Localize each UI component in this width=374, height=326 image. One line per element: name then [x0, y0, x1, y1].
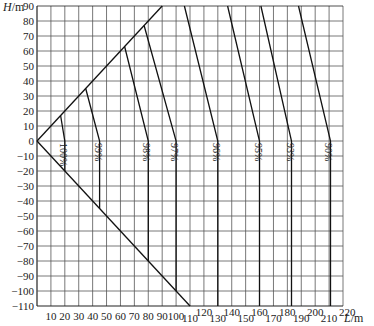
curve-label: 99%	[93, 143, 104, 161]
curve-label: 100%	[58, 143, 69, 166]
x-tick-label: 20	[59, 310, 71, 322]
curve-label: 98%	[141, 143, 152, 161]
x-tick-label: 90	[157, 310, 169, 322]
x-tick-label: 50	[101, 310, 113, 322]
x-tick-label: 60	[115, 310, 127, 322]
y-tick-label: −50	[17, 210, 35, 222]
y-axis-title: H/m	[2, 0, 25, 14]
y-tick-label: −60	[17, 225, 35, 237]
x-tick-label: 10	[45, 310, 57, 322]
curve-label: 96%	[211, 143, 222, 161]
x-axis-title: L/m	[343, 311, 364, 325]
y-tick-label: −20	[17, 165, 35, 177]
x-tick-label: 210	[321, 312, 338, 324]
y-tick-label: −90	[17, 270, 35, 282]
y-tick-label: 30	[23, 90, 35, 102]
curve-label: 97%	[169, 143, 180, 161]
y-tick-label: 80	[23, 15, 35, 27]
y-tick-label: −110	[12, 300, 35, 312]
y-tick-label: 70	[23, 30, 35, 42]
y-tick-label: 0	[29, 135, 35, 147]
curve-label: 95%	[253, 143, 264, 161]
y-tick-label: −40	[17, 195, 35, 207]
y-tick-label: −10	[17, 150, 35, 162]
y-tick-label: 40	[23, 75, 35, 87]
y-tick-label: 20	[23, 105, 35, 117]
curve-label: 90%	[323, 143, 334, 161]
x-tick-label: 30	[73, 310, 85, 322]
x-tick-label: 80	[143, 310, 155, 322]
x-tick-label: 40	[87, 310, 99, 322]
x-tick-label: 70	[129, 310, 141, 322]
y-tick-label: 60	[23, 45, 35, 57]
y-tick-label: −80	[17, 255, 35, 267]
y-tick-label: 90	[23, 0, 35, 12]
y-tick-label: −70	[17, 240, 35, 252]
grid	[37, 6, 343, 306]
x-axis-ticks: 1020304050607080901001101201301401501601…	[45, 306, 356, 324]
y-tick-label: −100	[11, 285, 34, 297]
chart: 9080706050403020100−10−20−30−40−50−60−70…	[0, 0, 374, 326]
y-tick-label: 10	[23, 120, 35, 132]
y-axis-ticks: 9080706050403020100−10−20−30−40−50−60−70…	[11, 0, 34, 312]
y-tick-label: −30	[17, 180, 35, 192]
y-tick-label: 50	[23, 60, 35, 72]
curve-label: 93%	[285, 143, 296, 161]
